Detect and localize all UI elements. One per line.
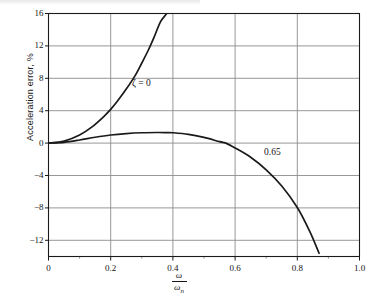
curve-zeta-0 bbox=[49, 9, 170, 143]
zeta-zero-label: ζ = 0 bbox=[132, 78, 151, 88]
x-axis-label: ω ωn bbox=[154, 271, 204, 296]
y-tick-label: −12 bbox=[16, 235, 44, 245]
x-tick-label: 1.0 bbox=[340, 263, 378, 273]
plot-canvas bbox=[0, 0, 378, 304]
x-axis-label-denominator-subscript: n bbox=[180, 287, 184, 295]
x-tick-label: 0.8 bbox=[277, 263, 317, 273]
x-axis-label-numerator: ω bbox=[154, 271, 204, 280]
acceleration-error-chart-figure: 1612840−4−8−12 00.20.40.60.81.0 Accelera… bbox=[0, 0, 378, 304]
y-tick-label: −8 bbox=[16, 202, 44, 212]
x-tick-label: 0.2 bbox=[91, 263, 131, 273]
zeta-065-label: 0.65 bbox=[264, 147, 281, 157]
horizontal-gridlines bbox=[49, 46, 360, 240]
x-tick-label: 0.6 bbox=[215, 263, 255, 273]
vertical-gridlines bbox=[111, 14, 298, 257]
x-tick-label: 0 bbox=[29, 263, 69, 273]
y-axis-label: Acceleration error, % bbox=[25, 17, 35, 177]
x-axis-label-denominator: ωn bbox=[154, 283, 204, 295]
plot-frame bbox=[49, 14, 360, 257]
